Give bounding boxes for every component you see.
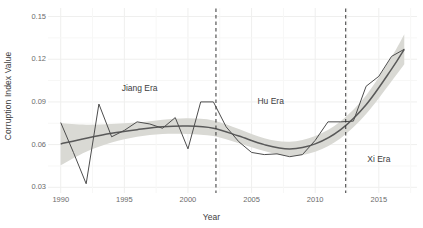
gridlines-minor bbox=[48, 8, 417, 193]
x-tick-label: 1995 bbox=[116, 196, 133, 204]
x-tick-label: 2010 bbox=[307, 196, 324, 204]
era-label-hu: Hu Era bbox=[257, 96, 283, 106]
x-tick-label: 2005 bbox=[243, 196, 260, 204]
chart-container: Corruption Index Value Year 0.030.060.09… bbox=[0, 0, 423, 228]
era-label-xi: Xi Era bbox=[367, 154, 390, 164]
gridlines-major bbox=[48, 8, 417, 193]
x-tick-label: 2015 bbox=[370, 196, 387, 204]
plot-svg bbox=[48, 8, 417, 193]
x-tick-label: 2000 bbox=[180, 196, 197, 204]
plot-area: Jiang EraHu EraXi Era bbox=[48, 8, 417, 193]
era-label-jiang: Jiang Era bbox=[122, 83, 158, 93]
x-tick-label: 1990 bbox=[52, 196, 69, 204]
confidence-band bbox=[61, 34, 405, 165]
